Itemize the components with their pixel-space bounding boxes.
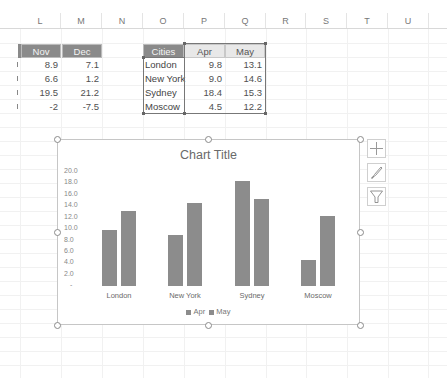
column-header-m[interactable]: M <box>61 13 102 29</box>
range-handle[interactable] <box>142 112 145 115</box>
column-header-q[interactable]: Q <box>225 13 266 29</box>
filter-icon <box>368 188 385 205</box>
column-header-n[interactable]: N <box>102 13 143 29</box>
resize-handle-top-left[interactable] <box>54 136 61 143</box>
y-tick: 8.0 <box>64 236 88 243</box>
y-tick: 18.0 <box>64 178 88 185</box>
grid-line <box>0 127 447 128</box>
cell-may-3[interactable]: 15.3 <box>225 86 265 100</box>
bar-sydney-may[interactable] <box>254 199 269 286</box>
column-header-t[interactable]: T <box>347 13 388 29</box>
cell-city-3[interactable]: Sydney <box>143 86 184 100</box>
column-header-p[interactable]: P <box>184 13 225 29</box>
cell-nov-3[interactable]: 19.5 <box>20 86 61 100</box>
column-header-l[interactable]: L <box>20 13 61 29</box>
range-handle[interactable] <box>183 42 186 45</box>
chart-styles-button[interactable] <box>367 163 386 182</box>
category-label-moscow: Moscow <box>288 291 348 300</box>
range-handle[interactable] <box>183 112 186 115</box>
chart-title[interactable]: Chart Title <box>58 148 359 162</box>
chart-elements-button[interactable] <box>367 139 386 158</box>
cell-dec-4[interactable]: -7.5 <box>61 100 102 114</box>
column-header-r[interactable]: R <box>266 13 306 29</box>
cell-dec-1[interactable]: 7.1 <box>61 58 102 72</box>
legend-swatch-may <box>209 310 214 315</box>
bar-moscow-may[interactable] <box>320 216 335 286</box>
cell-may-2[interactable]: 14.6 <box>225 72 265 86</box>
chart-filters-button[interactable] <box>367 187 386 206</box>
y-tick: 16.0 <box>64 190 88 197</box>
category-label-london: London <box>89 291 149 300</box>
cell-apr-2[interactable]: 9.0 <box>184 72 225 86</box>
cell-city-2[interactable]: New York <box>143 72 184 86</box>
y-tick: 14.0 <box>64 201 88 208</box>
column-header-s[interactable]: S <box>306 13 347 29</box>
cell-nov-4[interactable]: -2 <box>20 100 61 114</box>
y-tick: - <box>70 281 94 288</box>
clipped-cell-marker <box>17 62 18 67</box>
header-apr[interactable]: Apr <box>184 44 225 58</box>
resize-handle-left[interactable] <box>54 229 61 236</box>
header-dec[interactable]: Dec <box>62 44 102 58</box>
cell-city-1[interactable]: London <box>143 58 184 72</box>
clipped-cell-marker <box>17 104 18 109</box>
plus-icon <box>368 140 385 157</box>
category-label-newyork: New York <box>155 291 215 300</box>
y-tick: 20.0 <box>64 167 88 174</box>
column-header-divider <box>0 28 447 29</box>
clustered-column-chart[interactable]: Chart Title 20.0 18.0 16.0 14.0 12.0 10.… <box>57 139 360 325</box>
grid-line <box>0 351 447 352</box>
column-header-o[interactable]: O <box>143 13 184 29</box>
grid-line <box>0 337 447 338</box>
bar-sydney-apr[interactable] <box>235 181 250 286</box>
bar-newyork-apr[interactable] <box>168 235 183 286</box>
grid-line <box>0 365 447 366</box>
cell-nov-1[interactable]: 8.9 <box>20 58 61 72</box>
bar-london-may[interactable] <box>121 211 136 286</box>
clipped-cell-marker <box>17 76 18 81</box>
cell-dec-3[interactable]: 21.2 <box>61 86 102 100</box>
resize-handle-bottom-left[interactable] <box>54 322 61 329</box>
cell-apr-4[interactable]: 4.5 <box>184 100 225 114</box>
legend-label-may: May <box>216 307 230 316</box>
cell-nov-2[interactable]: 6.6 <box>20 72 61 86</box>
cell-apr-3[interactable]: 18.4 <box>184 86 225 100</box>
cell-apr-1[interactable]: 9.8 <box>184 58 225 72</box>
grid-line <box>388 29 389 378</box>
grid-line <box>428 29 429 378</box>
header-nov[interactable]: Nov <box>21 44 61 58</box>
header-may[interactable]: May <box>225 44 265 58</box>
cell-city-4[interactable]: Moscow <box>143 100 184 114</box>
bar-newyork-may[interactable] <box>187 203 202 286</box>
resize-handle-bottom[interactable] <box>205 322 212 329</box>
y-tick: 6.0 <box>64 247 88 254</box>
category-label-sydney: Sydney <box>222 291 282 300</box>
y-tick: 10.0 <box>64 224 88 231</box>
legend-label-apr: Apr <box>193 307 205 316</box>
column-header-u[interactable]: U <box>388 13 429 29</box>
range-handle[interactable] <box>264 42 267 45</box>
y-tick: 4.0 <box>64 258 88 265</box>
y-tick: 12.0 <box>64 213 88 220</box>
paintbrush-icon <box>368 164 385 181</box>
header-cities[interactable]: Cities <box>143 44 184 58</box>
cell-dec-2[interactable]: 1.2 <box>61 72 102 86</box>
resize-handle-bottom-right[interactable] <box>357 322 364 329</box>
y-tick: 2.0 <box>64 270 88 277</box>
cell-may-4[interactable]: 12.2 <box>225 100 265 114</box>
resize-handle-top[interactable] <box>205 136 212 143</box>
range-handle[interactable] <box>142 56 145 59</box>
clipped-cell-marker <box>17 90 18 95</box>
bar-london-apr[interactable] <box>102 230 117 286</box>
cell-may-1[interactable]: 13.1 <box>225 58 265 72</box>
legend-swatch-apr <box>186 310 191 315</box>
resize-handle-right[interactable] <box>357 229 364 236</box>
bar-moscow-apr[interactable] <box>301 260 316 286</box>
resize-handle-top-right[interactable] <box>357 136 364 143</box>
chart-legend[interactable]: Apr May <box>58 307 359 316</box>
range-handle[interactable] <box>264 112 267 115</box>
